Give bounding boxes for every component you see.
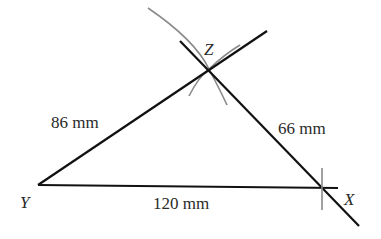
side-yz bbox=[38, 31, 267, 185]
vertex-label-x: X bbox=[344, 191, 354, 208]
side-label-zx: 66 mm bbox=[278, 120, 326, 137]
compass-arc-from-x bbox=[189, 45, 240, 96]
side-yx bbox=[38, 185, 338, 188]
side-label-yz: 86 mm bbox=[51, 114, 99, 131]
vertex-label-y: Y bbox=[20, 194, 29, 211]
compass-arc-from-y bbox=[148, 8, 227, 105]
vertex-label-z: Z bbox=[204, 41, 213, 58]
side-label-yx: 120 mm bbox=[153, 195, 209, 212]
